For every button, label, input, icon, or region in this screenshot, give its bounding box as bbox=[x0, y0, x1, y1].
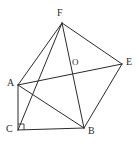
geometry-figure: FEACBO bbox=[0, 0, 138, 144]
vertex-label-e: E bbox=[126, 57, 132, 67]
edge-fe bbox=[62, 23, 122, 64]
edge-ae bbox=[18, 64, 122, 85]
edge-cb bbox=[18, 128, 84, 130]
vertex-label-o: O bbox=[72, 57, 79, 67]
vertex-label-c: C bbox=[6, 124, 13, 134]
edge-be bbox=[84, 64, 122, 128]
vertex-label-a: A bbox=[7, 78, 14, 88]
edges-group bbox=[18, 23, 122, 130]
vertex-label-b: B bbox=[88, 126, 95, 136]
vertex-label-f: F bbox=[57, 8, 63, 18]
figure-canvas bbox=[0, 0, 138, 144]
